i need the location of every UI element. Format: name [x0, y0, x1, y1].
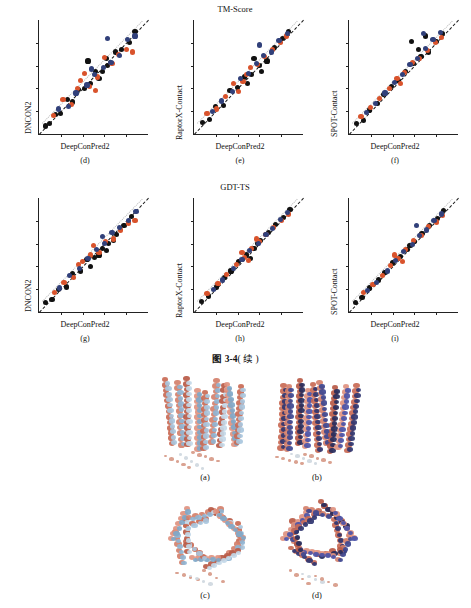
loop-segment: [208, 582, 212, 586]
helix-partner: [341, 422, 346, 426]
loop-segment: [182, 573, 186, 577]
helix-partner: [193, 558, 198, 562]
panel-d-axes: [38, 20, 148, 135]
helix-partner: [187, 425, 192, 429]
helix-partner: [241, 536, 246, 540]
panel-e-label: (e): [165, 156, 315, 165]
helix-partner: [312, 562, 317, 566]
loop-segment: [216, 460, 219, 463]
panel-i: SPOT-Contact DeepConPred2 (i): [320, 192, 470, 352]
loop-segment: [303, 453, 306, 456]
loop-segment: [320, 577, 324, 581]
helix-partner: [186, 544, 192, 549]
x-tick: [126, 312, 127, 315]
y-tick: [191, 111, 194, 112]
loop-segment: [314, 575, 317, 578]
scatter-point: [58, 111, 63, 116]
loop-segment: [288, 459, 291, 462]
y-tick: [346, 66, 349, 67]
helix-partner: [304, 443, 311, 448]
loop-segment: [221, 580, 225, 584]
helix-partner: [238, 416, 245, 421]
loop-segment: [197, 453, 202, 457]
helix-partner: [351, 420, 356, 424]
scatter-point: [400, 259, 405, 264]
helix-partner: [186, 381, 191, 385]
helix-partner: [227, 386, 232, 390]
scatter-point: [373, 101, 378, 106]
helix-partner: [354, 399, 359, 403]
panel-g-ylabel: DNCON2: [24, 212, 33, 312]
helix-partner: [351, 414, 358, 419]
helix-partner: [207, 566, 212, 570]
panel-g-label: (g): [10, 334, 160, 343]
x-tick: [238, 312, 239, 315]
helix-partner: [287, 441, 292, 445]
helix-partner: [344, 399, 349, 403]
panel-d-xlabel: DeepConPred2: [10, 142, 160, 151]
helix-partner: [171, 435, 176, 439]
helix-partner: [317, 442, 322, 446]
loop-segment: [294, 460, 299, 464]
figure-page: TM-Score GDT-TS DNCON2 DeepConPred2 (d) …: [0, 0, 471, 608]
helix-partner: [203, 445, 210, 450]
helix-partner: [356, 388, 361, 392]
y-tick: [36, 221, 39, 222]
panel-e: RaptorX-Contact DeepConPred2 (e): [165, 14, 315, 174]
scatter-point: [101, 65, 106, 70]
scatter-point: [124, 47, 129, 52]
y-tick: [346, 111, 349, 112]
helix-partner: [239, 411, 244, 415]
scatter-point: [414, 223, 419, 228]
scatter-point: [204, 111, 209, 116]
panel-g-axes: [38, 198, 148, 313]
helix-partner: [203, 518, 209, 523]
scatter-point: [439, 35, 444, 40]
helix-partner: [180, 555, 186, 560]
helix-partner: [325, 553, 331, 558]
loop-segment: [295, 454, 300, 458]
x-tick: [104, 134, 105, 137]
scatter-point: [239, 250, 244, 255]
helix-partner: [211, 563, 217, 568]
scatter-point: [57, 285, 62, 290]
scatter-point: [56, 106, 61, 111]
helix-partner: [344, 393, 351, 398]
loop-segment: [314, 462, 317, 465]
y-tick: [36, 289, 39, 290]
scatter-point: [382, 90, 387, 95]
scatter-point: [85, 256, 90, 261]
scatter-point: [71, 275, 76, 280]
y-tick: [191, 266, 194, 267]
protein-label-c: (c): [150, 590, 260, 600]
loop-segment: [208, 572, 212, 576]
helix-partner: [185, 532, 191, 537]
helix-partner: [170, 424, 175, 428]
helix-partner: [319, 553, 324, 557]
scatter-point: [365, 288, 370, 293]
panel-g-xlabel: DeepConPred2: [10, 320, 160, 329]
panel-e-xlabel: DeepConPred2: [165, 142, 315, 151]
loop-segment: [215, 577, 218, 580]
scatter-point: [278, 217, 283, 222]
protein-label-b: (b): [262, 472, 372, 482]
helix-partner: [211, 439, 216, 443]
scatter-point: [269, 49, 274, 54]
scatter-point: [214, 106, 219, 111]
scatter-point: [270, 226, 275, 231]
scatter-point: [409, 39, 414, 44]
scatter-point: [61, 280, 66, 285]
helix-partner: [177, 385, 182, 389]
protein-image-b: [262, 370, 372, 470]
loop-segment: [316, 457, 319, 460]
helix-partner: [170, 429, 177, 434]
scatter-point: [125, 37, 130, 42]
scatter-point: [109, 230, 114, 235]
helix-partner: [181, 561, 186, 565]
scatter-point: [84, 82, 89, 87]
scatter-point: [248, 65, 253, 70]
panel-d: DNCON2 DeepConPred2 (d): [10, 14, 160, 174]
scatter-point: [254, 61, 259, 66]
x-tick: [61, 312, 62, 315]
helix-partner: [337, 533, 342, 537]
